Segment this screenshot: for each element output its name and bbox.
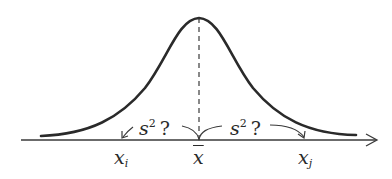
xbar-base: x (193, 146, 204, 168)
mean-brace (182, 126, 222, 139)
right-variance-label: s2? (230, 118, 261, 138)
left-variance-exponent: 2 (149, 117, 156, 130)
xj-base: x (298, 146, 309, 168)
left-arrow (123, 127, 133, 137)
left-variance-label: s2? (139, 118, 170, 138)
xj-subscript: j (309, 157, 312, 170)
xi-subscript: i (125, 157, 129, 170)
left-question-mark: ? (160, 117, 170, 139)
left-variance-base: s (139, 117, 149, 139)
right-question-mark: ? (251, 117, 261, 139)
point-xi-label: xi (114, 148, 128, 169)
right-variance-exponent: 2 (240, 117, 247, 130)
point-xj-label: xj (298, 148, 312, 169)
xi-base: x (114, 146, 125, 168)
right-variance-base: s (230, 117, 240, 139)
mean-xbar-label: x (193, 148, 204, 167)
normal-distribution-diagram: s2? s2? xi x xj (0, 0, 392, 179)
